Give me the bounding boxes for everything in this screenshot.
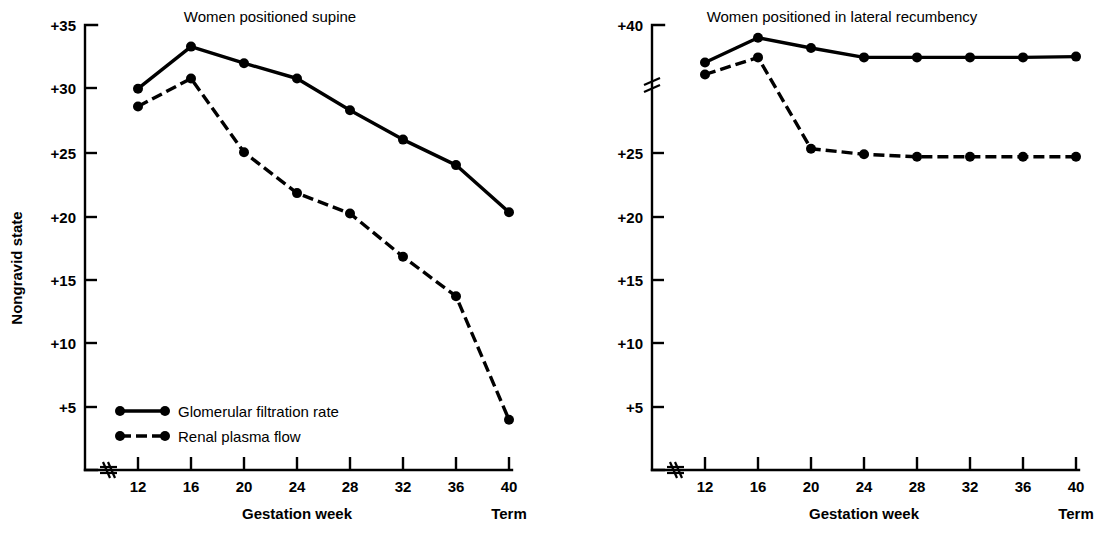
y-axis-spine-lateral [652,25,664,470]
y-ticks-supine [85,88,97,407]
x-tick-label-16: 16 [183,478,200,495]
term-label-lateral: Term [1058,505,1094,522]
y-axis-spine-supine [85,25,97,470]
y-tick-label-25: +25 [51,145,76,162]
y-tick-label-20: +20 [618,209,643,226]
y-tick-label-25: +25 [618,145,643,162]
series-group-supine [133,42,514,425]
y-tick-labels-lateral: +40 +25 +20 +15 +10 +5 [618,17,643,416]
x-tick-label-32: 32 [962,478,979,495]
y-tick-label-15: +15 [51,272,76,289]
data-point-dashed-40 [504,415,514,425]
y-tick-label-40: +40 [618,17,643,34]
data-point-dashed-16 [753,52,763,62]
series-markers-rpf-lateral [700,52,1081,161]
data-point-solid-40 [504,207,514,217]
x-tick-label-12: 12 [697,478,714,495]
data-point-solid-12 [700,58,710,68]
data-point-dashed-28 [345,209,355,219]
x-tick-label-28: 28 [342,478,359,495]
y-tick-label-5: +5 [59,399,76,416]
legend-label-rpf: Renal plasma flow [178,428,301,445]
term-label-supine: Term [491,505,527,522]
x-tick-label-40: 40 [501,478,518,495]
lateral-chart-svg: Women positioned in lateral recumbency +… [554,0,1108,536]
x-tick-labels-lateral: 12 16 20 24 28 32 36 40 [697,478,1085,495]
data-point-dashed-36 [451,291,461,301]
x-tick-label-12: 12 [130,478,147,495]
data-point-solid-20 [806,43,816,53]
data-point-dashed-24 [859,149,869,159]
legend-item-rpf[interactable]: Renal plasma flow [115,428,301,445]
data-point-dashed-20 [806,144,816,154]
series-line-gfr-supine [138,47,509,213]
legend-supine: Glomerular filtration rate Renal plasma … [115,403,339,445]
data-point-solid-32 [398,135,408,145]
data-point-solid-24 [292,74,302,84]
data-point-dashed-20 [239,147,249,157]
legend-item-gfr[interactable]: Glomerular filtration rate [115,403,339,420]
series-markers-gfr-supine [133,42,514,218]
series-line-rpf-supine [138,79,509,420]
x-tick-label-24: 24 [856,478,873,495]
series-markers-rpf-supine [133,74,514,425]
data-point-dashed-12 [133,102,143,112]
x-tick-label-28: 28 [909,478,926,495]
x-tick-label-20: 20 [236,478,253,495]
data-point-solid-20 [239,58,249,68]
chart-panel-lateral-recumbency: Women positioned in lateral recumbency +… [554,0,1108,536]
supine-chart-svg: Women positioned supine Nongravid state … [0,0,554,536]
x-ticks-lateral [705,457,1076,470]
chart-title-lateral: Women positioned in lateral recumbency [707,8,978,25]
data-point-solid-12 [133,84,143,94]
x-ticks-supine [138,457,509,470]
y-tick-label-5: +5 [626,399,643,416]
data-point-solid-40 [1071,52,1081,62]
data-point-solid-36 [1018,52,1028,62]
data-point-dashed-24 [292,188,302,198]
x-tick-label-40: 40 [1068,478,1085,495]
legend-label-gfr: Glomerular filtration rate [178,403,339,420]
data-point-solid-28 [345,105,355,115]
data-point-dashed-12 [700,70,710,80]
data-point-dashed-36 [1018,152,1028,162]
series-group-lateral [700,33,1081,162]
data-point-dashed-32 [965,152,975,162]
x-tick-label-16: 16 [750,478,767,495]
y-tick-label-15: +15 [618,272,643,289]
x-axis-label-supine: Gestation week [242,505,353,522]
data-point-dashed-28 [912,152,922,162]
chart-panel-supine: Women positioned supine Nongravid state … [0,0,554,536]
figure-root: Women positioned supine Nongravid state … [0,0,1108,536]
x-tick-labels-supine: 12 16 20 24 28 32 36 40 [130,478,518,495]
data-point-dashed-16 [186,74,196,84]
y-ticks-lateral [652,153,664,407]
x-tick-label-36: 36 [448,478,465,495]
chart-title-supine: Women positioned supine [184,8,356,25]
y-tick-label-35: +35 [51,17,76,34]
x-tick-label-36: 36 [1015,478,1032,495]
data-point-dashed-40 [1071,152,1081,162]
x-tick-label-32: 32 [395,478,412,495]
data-point-solid-28 [912,52,922,62]
y-tick-label-20: +20 [51,209,76,226]
data-point-solid-36 [451,160,461,170]
series-line-rpf-lateral [705,57,1076,156]
data-point-solid-16 [753,33,763,43]
y-tick-labels-supine: +35 +30 +25 +20 +15 +10 +5 [51,17,76,416]
y-tick-label-10: +10 [618,335,643,352]
y-tick-label-10: +10 [51,335,76,352]
data-point-solid-16 [186,42,196,52]
data-point-dashed-32 [398,252,408,262]
data-point-solid-24 [859,52,869,62]
x-tick-label-24: 24 [289,478,306,495]
x-tick-label-20: 20 [803,478,820,495]
y-axis-label-supine: Nongravid state [8,211,25,324]
x-axis-label-lateral: Gestation week [809,505,920,522]
y-tick-label-30: +30 [51,80,76,97]
data-point-solid-32 [965,52,975,62]
